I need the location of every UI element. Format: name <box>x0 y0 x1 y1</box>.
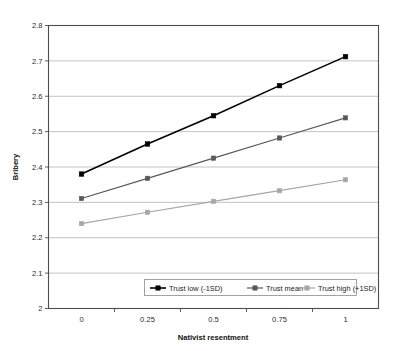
data-point-marker <box>277 83 282 88</box>
data-point-marker <box>145 142 150 147</box>
x-tick-label: 0.5 <box>208 315 219 324</box>
legend-label: Trust mean <box>266 284 303 293</box>
x-tick-label: 0.75 <box>272 315 287 324</box>
legend-marker-swatch <box>305 286 309 290</box>
data-point-marker <box>79 196 83 200</box>
y-tick-label: 2.2 <box>32 233 43 242</box>
data-point-marker <box>343 178 347 182</box>
chart-background <box>0 0 415 351</box>
y-tick-label: 2.6 <box>32 92 43 101</box>
data-point-marker <box>79 221 83 225</box>
x-tick-label: 1 <box>343 315 347 324</box>
legend-label: Trust low (-1SD) <box>169 284 223 293</box>
chart-legend: Trust low (-1SD)Trust meanTrust high (+1… <box>145 280 377 296</box>
y-tick-label: 2.7 <box>32 57 43 66</box>
data-point-marker <box>343 116 347 120</box>
x-axis-title: Nativist resentment <box>178 333 249 342</box>
data-point-marker <box>145 210 149 214</box>
line-chart: 22.12.22.32.42.52.62.72.8 00.250.50.751 … <box>0 0 415 351</box>
y-axis-title: Bribery <box>11 153 20 180</box>
data-point-marker <box>211 156 215 160</box>
legend-marker-swatch <box>253 286 257 290</box>
y-tick-label: 2.5 <box>32 127 43 136</box>
data-point-marker <box>145 176 149 180</box>
data-point-marker <box>343 54 348 59</box>
x-tick-label: 0 <box>79 315 83 324</box>
data-point-marker <box>211 199 215 203</box>
y-tick-label: 2 <box>38 304 42 313</box>
data-point-marker <box>211 113 216 118</box>
y-tick-label: 2.4 <box>32 163 43 172</box>
y-tick-label: 2.1 <box>32 269 43 278</box>
data-point-marker <box>277 189 281 193</box>
legend-marker-swatch <box>156 286 160 290</box>
x-tick-label: 0.25 <box>140 315 155 324</box>
chart-container: 22.12.22.32.42.52.62.72.8 00.250.50.751 … <box>0 0 415 351</box>
data-point-marker <box>79 172 84 177</box>
y-tick-label: 2.3 <box>32 198 43 207</box>
y-axis-tick-labels: 22.12.22.32.42.52.62.72.8 <box>32 21 43 313</box>
y-tick-label: 2.8 <box>32 21 43 30</box>
data-point-marker <box>277 136 281 140</box>
legend-label: Trust high (+1SD) <box>318 284 376 293</box>
